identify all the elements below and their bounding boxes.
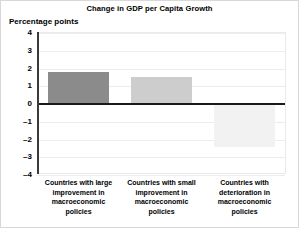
y-tick-label: –4 — [23, 171, 32, 179]
bar — [48, 72, 109, 104]
y-tick-label: –1 — [23, 118, 32, 126]
x-axis-category-labels: Countries with large improvement in macr… — [37, 178, 286, 216]
gridline — [37, 69, 285, 70]
y-tick-label: –3 — [23, 153, 32, 161]
gridline — [37, 51, 285, 52]
gridline — [37, 157, 285, 158]
x-category-label: Countries with large improvement in macr… — [37, 178, 120, 216]
gridline — [37, 175, 285, 176]
y-tick-label: 1 — [28, 82, 32, 90]
y-tick-label: 2 — [28, 65, 32, 73]
y-tick-label: 3 — [28, 47, 32, 55]
x-category-label: Countries with deterioration in macroeco… — [203, 178, 286, 216]
chart-title: Change in GDP per Capita Growth — [1, 4, 298, 13]
y-tick-label: 4 — [28, 29, 32, 37]
bar — [214, 104, 275, 147]
y-axis-label: Percentage points — [9, 17, 78, 26]
y-axis-line — [37, 32, 39, 174]
x-category-label: Countries with small improvement in macr… — [120, 178, 203, 216]
plot-area: 43210–1–2–3–4 — [37, 32, 286, 174]
y-tick-label: 0 — [28, 100, 32, 108]
zero-baseline — [37, 103, 285, 105]
bar — [131, 77, 192, 104]
gridline — [37, 33, 285, 34]
chart-figure: Change in GDP per Capita Growth Percenta… — [0, 0, 299, 228]
y-tick-label: –2 — [23, 136, 32, 144]
